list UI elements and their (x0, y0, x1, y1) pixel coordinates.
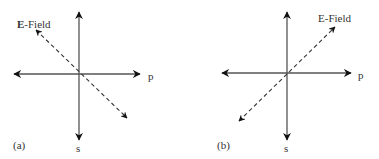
panel-label-a: (a) (13, 139, 26, 152)
panel-label-b: (b) (217, 139, 230, 152)
s-axis-label: s (76, 142, 80, 154)
p-axis-label: p (148, 70, 154, 82)
p-axis-label: p (358, 69, 364, 81)
panel-b: E-Field p s (b) (217, 12, 364, 154)
panel-a: E-Field p s (a) (13, 12, 154, 154)
e-field-label: E-Field (17, 18, 51, 30)
e-field-label: E-Field (318, 12, 352, 24)
s-axis-label: s (284, 142, 288, 154)
polarization-diagram: E-Field p s (a) E-Field p s (b) (0, 0, 379, 159)
